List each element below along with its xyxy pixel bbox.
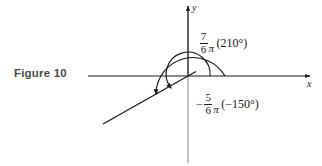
- figure-container: Figure 10 y x 7 6 π (210°) − 5 6 π (−150…: [0, 0, 322, 166]
- angle-diagram: [0, 0, 322, 166]
- positive-angle-label: 7 6 π (210°): [198, 31, 247, 55]
- negative-angle-numerator: 5: [206, 92, 212, 104]
- positive-angle-degrees: (210°): [214, 37, 247, 49]
- negative-angle-sign: −: [196, 98, 204, 110]
- terminal-ray: [103, 72, 196, 125]
- positive-angle-denominator: 6: [201, 44, 207, 56]
- negative-angle-fraction: 5 6: [204, 92, 212, 116]
- positive-angle-fraction: 7 6: [200, 31, 208, 55]
- negative-angle-denominator: 6: [206, 105, 212, 117]
- x-axis-label: x: [307, 78, 311, 89]
- negative-angle-label: − 5 6 π (−150°): [196, 92, 259, 116]
- negative-angle-degrees: (−150°): [219, 98, 259, 110]
- positive-angle-numerator: 7: [201, 31, 207, 43]
- y-axis-label: y: [192, 2, 196, 13]
- figure-caption: Figure 10: [14, 67, 67, 79]
